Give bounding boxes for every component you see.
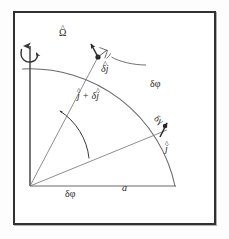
figure-frame: ^ Ω ^ δj ^ j + δ ^ j bbox=[13, 11, 216, 225]
radial-line-lower bbox=[30, 130, 167, 186]
j-hat-mark-2: ^ bbox=[96, 87, 100, 96]
diagram-canvas bbox=[15, 13, 214, 223]
label-delta-phi-upper: δφ bbox=[150, 79, 160, 89]
label-radius-a: a bbox=[122, 183, 127, 193]
label-omega: ^ Ω bbox=[59, 28, 66, 38]
j-hat-mark-1: ^ bbox=[77, 87, 81, 96]
label-j-vector: ^ j bbox=[165, 144, 168, 154]
label-j-plus-delta-j: ^ j + δ ^ j bbox=[77, 91, 99, 101]
omega-hat-mark: ^ bbox=[61, 24, 65, 33]
label-delta-phi-lower: δφ bbox=[65, 189, 75, 199]
j-vector-hat-mark: ^ bbox=[165, 140, 169, 149]
label-delta-j: ^ δj bbox=[101, 64, 108, 74]
radial-line-upper bbox=[30, 55, 99, 186]
angle-arc-delta-phi bbox=[60, 111, 89, 158]
figure-root: ^ Ω ^ δj ^ j + δ ^ j bbox=[0, 0, 229, 239]
lower-point-marker bbox=[163, 124, 167, 128]
delta-j-vector bbox=[91, 44, 98, 57]
plus-delta-text: + δ bbox=[80, 90, 96, 101]
upper-delta-phi-arc bbox=[107, 54, 111, 59]
rotation-curl-arrow bbox=[21, 50, 37, 63]
delta-j-hat-mark: ^ bbox=[103, 60, 107, 69]
delta-phi-leader bbox=[112, 57, 147, 65]
